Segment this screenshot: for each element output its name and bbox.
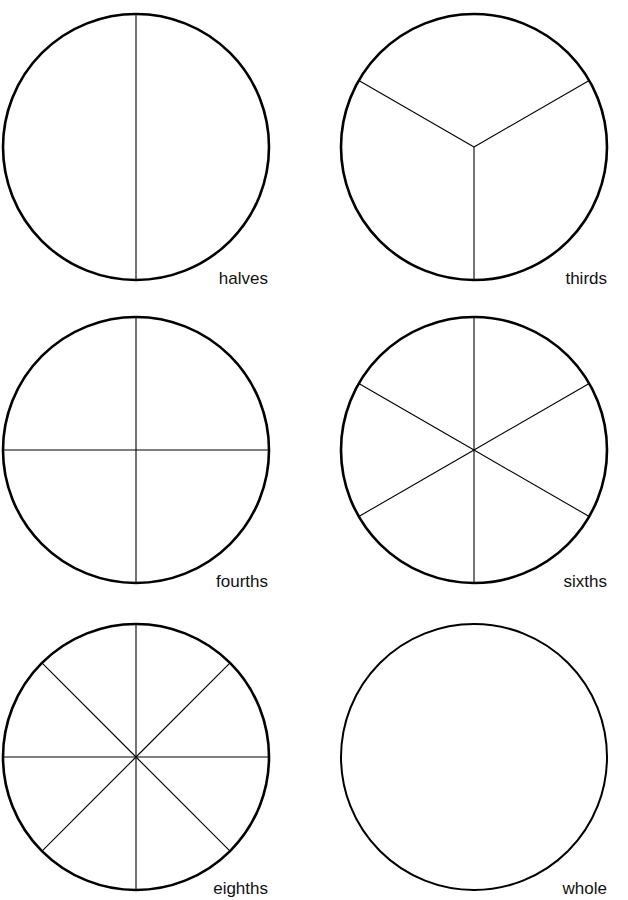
circle-drawing-sixths: [335, 311, 613, 589]
figure-label-halves: halves: [68, 270, 268, 287]
circle-drawing-eighths: [0, 618, 275, 896]
figure-label-fourths: fourths: [68, 573, 268, 590]
fraction-circle-eighths: [0, 618, 275, 896]
figure-label-sixths: sixths: [407, 573, 607, 590]
circle-drawing-fourths: [0, 311, 275, 589]
divider-radius-30: [474, 384, 589, 451]
divider-radius-45: [136, 663, 230, 757]
divider-radius-225: [42, 757, 136, 851]
fraction-circle-halves: [0, 8, 275, 286]
figure-label-thirds: thirds: [407, 270, 607, 287]
fraction-circle-sixths: [335, 311, 613, 589]
divider-radius-150: [359, 384, 474, 451]
divider-radius-150: [359, 81, 474, 148]
divider-radius-30: [474, 81, 589, 148]
figure-label-eighths: eighths: [68, 880, 268, 897]
divider-radius-330: [474, 450, 589, 517]
divider-radius-210: [359, 450, 474, 517]
circle-outline: [341, 624, 607, 890]
figure-label-whole: whole: [407, 880, 607, 897]
circle-drawing-halves: [0, 8, 275, 286]
circle-drawing-whole: [335, 618, 613, 896]
divider-radius-135: [42, 663, 136, 757]
divider-radius-315: [136, 757, 230, 851]
fraction-circle-whole: [335, 618, 613, 896]
fraction-circle-fourths: [0, 311, 275, 589]
fraction-circle-thirds: [335, 8, 613, 286]
fraction-circle-grid: halvesthirdsfourthssixthseighthswhole: [0, 0, 628, 900]
circle-drawing-thirds: [335, 8, 613, 286]
